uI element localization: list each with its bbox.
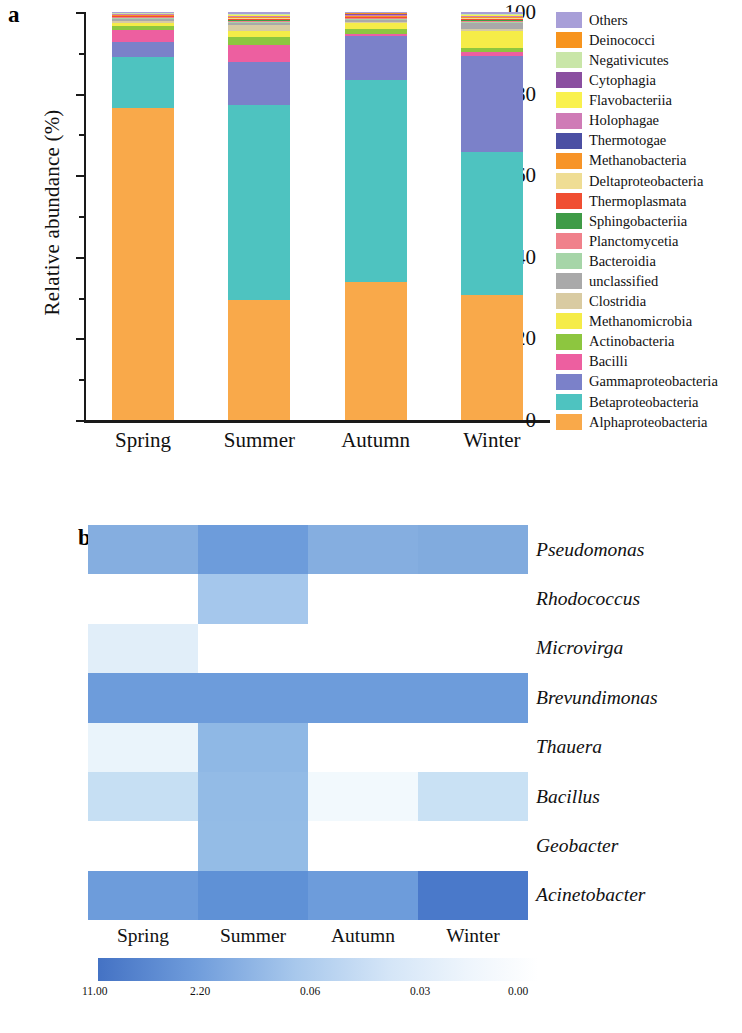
y-axis-tick-major: [76, 175, 85, 177]
legend-color-swatch: [556, 293, 582, 309]
heatmap-column-label: Autumn: [331, 925, 395, 947]
legend-item-label: Flavobacteriia: [589, 93, 672, 108]
bar-segment: [228, 62, 290, 105]
legend-item-label: Methanomicrobia: [589, 314, 692, 329]
y-axis-tick-major: [76, 12, 85, 14]
legend-item[interactable]: Deltaproteobacteria: [556, 171, 742, 191]
stacked-bar: [461, 12, 523, 420]
legend-item[interactable]: Flavobacteriia: [556, 90, 742, 110]
heatmap-cell: [308, 525, 418, 574]
bar-segment: [345, 80, 407, 282]
stacked-bar: [228, 12, 290, 420]
x-axis-line: [84, 420, 550, 423]
heatmap-cell: [308, 673, 418, 722]
legend-item-label: Holophagae: [589, 113, 659, 128]
bar-segment: [461, 31, 523, 48]
legend-item-label: Sphingobacteriia: [589, 214, 687, 229]
stacked-bar: [345, 12, 407, 420]
legend-item[interactable]: Bacilli: [556, 352, 742, 372]
heatmap-cell: [88, 624, 198, 673]
y-axis-tick-minor: [79, 379, 85, 381]
bar-segment: [112, 42, 174, 57]
legend: OthersDeinococciNegativicutesCytophagiaF…: [556, 10, 742, 432]
legend-color-swatch: [556, 394, 582, 410]
legend-color-swatch: [556, 233, 582, 249]
legend-item[interactable]: Betaproteobacteria: [556, 392, 742, 412]
legend-item[interactable]: Cytophagia: [556, 70, 742, 90]
x-axis-tick-label: Autumn: [341, 428, 410, 453]
heatmap-cell: [418, 821, 528, 870]
legend-color-swatch: [556, 354, 582, 370]
heatmap-row-label: Brevundimonas: [536, 687, 658, 709]
heatmap-row-label: Rhodococcus: [536, 588, 640, 610]
heatmap-cell: [88, 772, 198, 821]
legend-item[interactable]: Deinococci: [556, 30, 742, 50]
y-axis-tick-major: [76, 94, 85, 96]
bar-segment: [228, 37, 290, 45]
legend-item[interactable]: Methanomicrobia: [556, 311, 742, 331]
x-axis-tick-label: Summer: [224, 428, 295, 453]
heatmap-cell: [198, 673, 308, 722]
heatmap-row-label: Microvirga: [536, 637, 623, 659]
bar-segment: [112, 108, 174, 420]
legend-color-swatch: [556, 273, 582, 289]
x-axis-tick-label: Winter: [463, 428, 520, 453]
legend-item[interactable]: Sphingobacteriia: [556, 211, 742, 231]
legend-item[interactable]: Alphaproteobacteria: [556, 412, 742, 432]
heatmap-cell: [418, 624, 528, 673]
heatmap-cell: [308, 772, 418, 821]
bar-segment: [112, 57, 174, 108]
legend-item-label: Cytophagia: [589, 73, 656, 88]
bar-segment: [228, 45, 290, 62]
y-axis-tick-minor: [79, 53, 85, 55]
colorbar-tick-label: 2.20: [190, 985, 210, 997]
legend-item-label: Betaproteobacteria: [589, 395, 699, 410]
legend-item-label: Bacilli: [589, 354, 628, 369]
legend-item-label: Negativicutes: [589, 53, 669, 68]
heatmap-cell: [308, 871, 418, 920]
heatmap-cell: [198, 772, 308, 821]
bar-segment: [461, 295, 523, 420]
legend-item-label: Bacteroidia: [589, 254, 656, 269]
legend-item-label: Clostridia: [589, 294, 646, 309]
heatmap-cell: [308, 574, 418, 623]
legend-color-swatch: [556, 374, 582, 390]
bar-segment: [461, 152, 523, 295]
bar-segment: [461, 56, 523, 152]
legend-item[interactable]: Actinobacteria: [556, 332, 742, 352]
scan-bleed-artifact: [150, 488, 154, 505]
x-axis-tick-label: Spring: [115, 428, 171, 453]
legend-item[interactable]: Planctomycetia: [556, 231, 742, 251]
heatmap-column-label: Winter: [446, 925, 499, 947]
heatmap-cell: [88, 723, 198, 772]
y-axis-tick-label: 0: [526, 408, 537, 433]
legend-item[interactable]: Thermotogae: [556, 131, 742, 151]
heatmap-cell: [198, 821, 308, 870]
legend-item[interactable]: Gammaproteobacteria: [556, 372, 742, 392]
legend-color-swatch: [556, 133, 582, 149]
legend-item[interactable]: Bacteroidia: [556, 251, 742, 271]
legend-item[interactable]: Holophagae: [556, 110, 742, 130]
heatmap-cell: [418, 723, 528, 772]
heatmap-cell: [418, 871, 528, 920]
heatmap-row-label: Pseudomonas: [536, 539, 644, 561]
y-axis-tick-minor: [79, 134, 85, 136]
heatmap-row-label: Acinetobacter: [536, 884, 645, 906]
legend-item[interactable]: Negativicutes: [556, 50, 742, 70]
legend-color-swatch: [556, 12, 582, 28]
legend-color-swatch: [556, 92, 582, 108]
panel-a-stacked-bar-chart: a Relative abundance (%) 020406080100 Sp…: [0, 0, 742, 470]
heatmap-cell: [88, 821, 198, 870]
heatmap-cell: [88, 574, 198, 623]
legend-item-label: Actinobacteria: [589, 334, 674, 349]
legend-item[interactable]: Thermoplasmata: [556, 191, 742, 211]
legend-color-swatch: [556, 313, 582, 329]
heatmap-cell: [88, 673, 198, 722]
legend-item-label: unclassified: [589, 274, 658, 289]
legend-item[interactable]: Clostridia: [556, 291, 742, 311]
legend-item[interactable]: Methanobacteria: [556, 151, 742, 171]
plot-area-a: 020406080100: [85, 12, 550, 420]
legend-item[interactable]: unclassified: [556, 271, 742, 291]
legend-item[interactable]: Others: [556, 10, 742, 30]
panel-a-label: a: [8, 2, 20, 28]
